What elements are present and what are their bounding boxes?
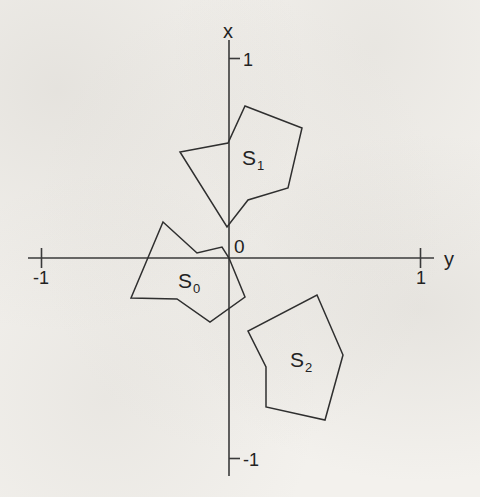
shape-label-s0-base: S — [178, 269, 192, 292]
shape-label-s2-subscript: 2 — [305, 360, 312, 375]
shape-polygon-s1 — [180, 106, 302, 227]
vertical-axis-tick-top-label: 1 — [243, 50, 253, 70]
axis-group — [28, 40, 434, 476]
shape-label-s1-subscript: 1 — [257, 158, 264, 173]
shape-label-s2-base: S — [290, 348, 304, 371]
shape-label-s1-base: S — [242, 146, 256, 169]
vertical-axis-label: x — [223, 20, 233, 42]
shape-label-s0: S 0 — [178, 269, 200, 296]
shape-label-s0-subscript: 0 — [193, 281, 200, 296]
horizontal-axis-tick-left-label: -1 — [33, 268, 49, 288]
figure-page: x y 1 -1 -1 1 0 S 0 S 1 S 2 — [0, 0, 480, 497]
origin-label: 0 — [234, 236, 245, 257]
horizontal-axis-label: y — [444, 248, 454, 270]
shape-label-s2: S 2 — [290, 348, 312, 375]
shape-label-s1: S 1 — [242, 146, 264, 173]
vertical-axis-tick-bottom-label: -1 — [243, 450, 259, 470]
coordinate-figure: x y 1 -1 -1 1 0 S 0 S 1 S 2 — [0, 0, 480, 497]
horizontal-axis-tick-right-label: 1 — [416, 268, 426, 288]
